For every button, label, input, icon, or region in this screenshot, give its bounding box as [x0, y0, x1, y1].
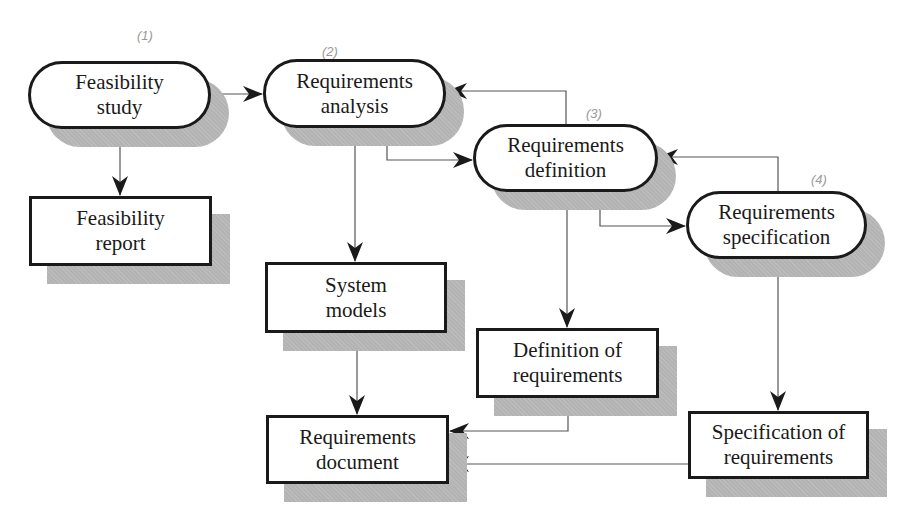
process-requirements-analysis: Requirements analysis [263, 59, 446, 128]
node-label: Feasibility study [75, 70, 164, 120]
node-label: Definition of requirements [513, 338, 623, 388]
node-label: Requirements document [299, 425, 416, 475]
requirements-engineering-process-diagram: Feasibility study Requirements analysis … [0, 0, 906, 525]
node-label: Requirements specification [718, 200, 835, 250]
node-label: System models [325, 273, 387, 323]
document-definition-of-requirements: Definition of requirements [476, 328, 659, 398]
annotation-4: (4) [811, 172, 827, 187]
arrow-definition-to-analysis [448, 91, 566, 124]
node-label: Feasibility report [76, 206, 165, 256]
annotation-3: (3) [586, 106, 602, 121]
document-system-models: System models [265, 262, 447, 333]
document-specification-of-requirements: Specification of requirements [688, 411, 869, 479]
node-label: Specification of requirements [712, 420, 846, 470]
document-requirements-document: Requirements document [266, 415, 449, 484]
document-feasibility-report: Feasibility report [29, 196, 212, 266]
node-label: Requirements definition [507, 133, 624, 183]
process-requirements-specification: Requirements specification [686, 191, 867, 259]
process-requirements-definition: Requirements definition [473, 124, 658, 192]
process-feasibility-study: Feasibility study [28, 61, 211, 129]
annotation-1: (1) [137, 28, 153, 43]
arrow-specification-to-definition [659, 157, 778, 191]
node-label: Requirements analysis [296, 69, 413, 119]
annotation-2: (2) [322, 44, 338, 59]
